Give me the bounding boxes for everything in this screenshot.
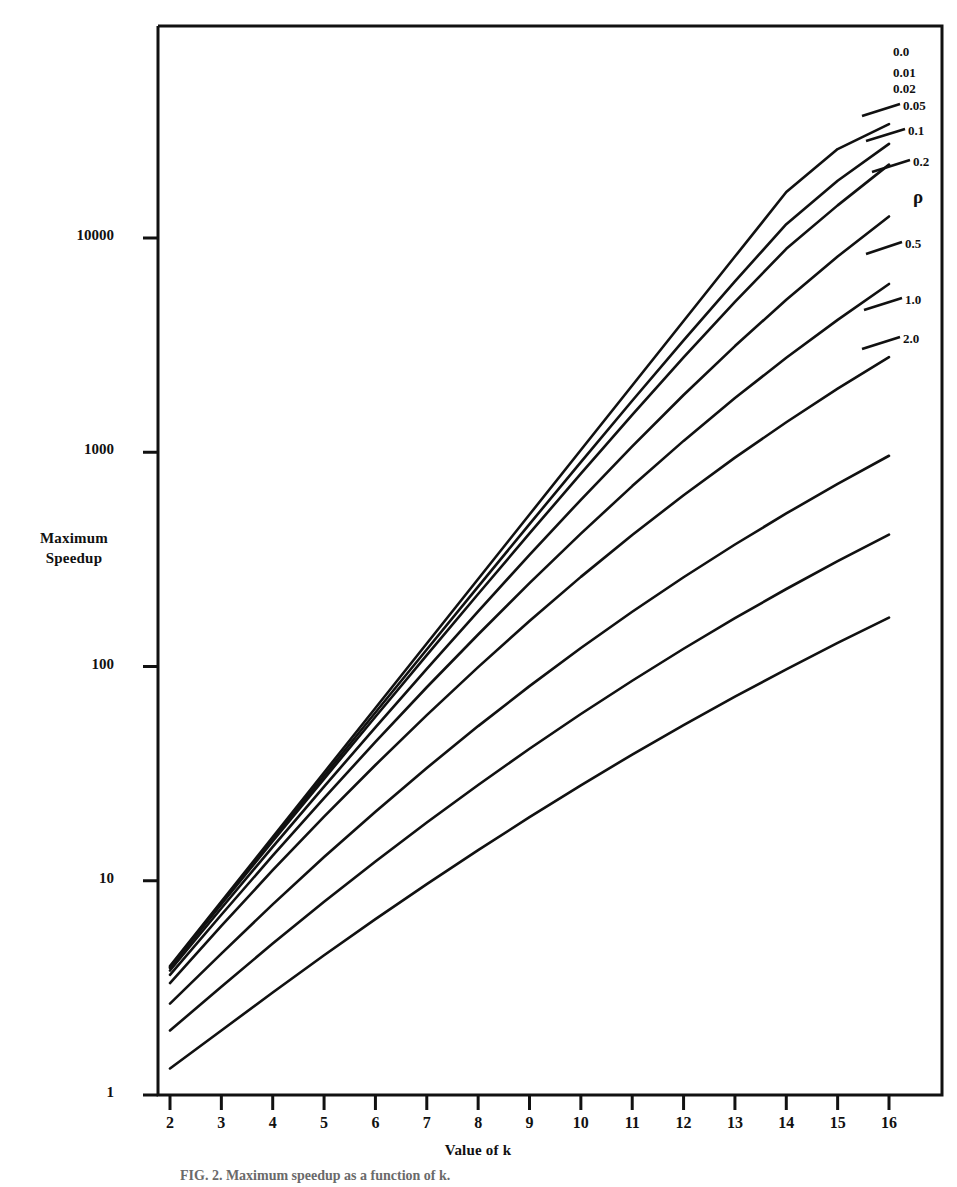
- x-tick-10: 10: [561, 1114, 601, 1132]
- y-tick-10000: 10000: [28, 227, 114, 244]
- x-tick-6: 6: [355, 1114, 395, 1132]
- label-leader-lines: [862, 104, 910, 349]
- x-axis-title: Value of k: [398, 1142, 558, 1159]
- curve-label-rho-0.01: 0.01: [893, 65, 916, 81]
- y-axis-title: Maximum Speedup: [8, 528, 140, 568]
- curve-label-rho-0.05: 0.05: [903, 98, 926, 114]
- curve-rho-0.1: [170, 284, 889, 975]
- curve-label-rho-0.2: 0.2: [913, 154, 929, 170]
- y-tick-1: 1: [28, 1084, 114, 1101]
- curve-label-rho-0.5: 0.5: [905, 236, 921, 252]
- x-tick-3: 3: [201, 1114, 241, 1132]
- y-tick-10: 10: [28, 870, 114, 887]
- y-tick-1000: 1000: [28, 441, 114, 458]
- curve-label-rho-2.0: 2.0: [903, 331, 919, 347]
- x-tick-7: 7: [407, 1114, 447, 1132]
- curve-label-rho-0.1: 0.1: [908, 123, 924, 139]
- x-tick-13: 13: [715, 1114, 755, 1132]
- curve-rho-0.05: [170, 217, 889, 971]
- x-tick-15: 15: [818, 1114, 858, 1132]
- curve-label-rho-1.0: 1.0: [905, 292, 921, 308]
- x-tick-12: 12: [664, 1114, 704, 1132]
- data-curves: [170, 124, 889, 1068]
- curve-label-rho-0.0: 0.0: [893, 44, 909, 60]
- plot-area: [0, 0, 957, 1187]
- plot-frame: [158, 26, 942, 1095]
- y-axis-title-line2: Speedup: [8, 548, 140, 568]
- y-axis-ticks: [143, 238, 158, 1095]
- figure-chart: Maximum Speedup Value of k 1101001000100…: [0, 0, 957, 1187]
- y-axis-title-line1: Maximum: [8, 528, 140, 548]
- x-tick-11: 11: [612, 1114, 652, 1132]
- x-tick-2: 2: [150, 1114, 190, 1132]
- x-tick-14: 14: [766, 1114, 806, 1132]
- x-tick-5: 5: [304, 1114, 344, 1132]
- x-tick-8: 8: [458, 1114, 498, 1132]
- legend-title-rho: ρ: [913, 186, 923, 208]
- curve-rho-0.5: [170, 456, 889, 1004]
- curve-rho-0.02: [170, 165, 889, 968]
- x-axis-ticks: [170, 1095, 889, 1110]
- y-tick-100: 100: [28, 656, 114, 673]
- x-tick-16: 16: [869, 1114, 909, 1132]
- figure-caption: FIG. 2. Maximum speedup as a function of…: [180, 1168, 800, 1187]
- curve-rho-0.2: [170, 357, 889, 983]
- x-tick-4: 4: [253, 1114, 293, 1132]
- curve-label-rho-0.02: 0.02: [893, 81, 916, 97]
- x-tick-9: 9: [510, 1114, 550, 1132]
- curve-rho-1.0: [170, 535, 889, 1031]
